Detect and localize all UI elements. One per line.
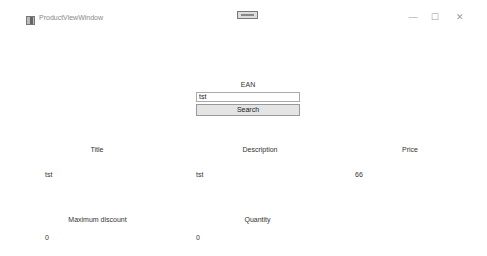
quantity-label: Quantity: [235, 216, 280, 223]
description-label: Description: [230, 146, 290, 153]
title-label: Title: [72, 146, 122, 153]
price-value: 66: [355, 171, 363, 178]
quantity-value: 0: [196, 234, 200, 241]
maximize-button[interactable]: ☐: [428, 12, 442, 22]
title-bar: ProductViewWindow — ☐ ✕: [0, 0, 487, 32]
minimize-button[interactable]: —: [406, 12, 420, 22]
max-discount-label: Maximum discount: [60, 216, 135, 223]
debug-toolbar-icon[interactable]: [237, 11, 258, 19]
ean-label: EAN: [228, 81, 268, 88]
max-discount-value: 0: [45, 234, 49, 241]
description-value: tst: [196, 171, 203, 178]
close-button[interactable]: ✕: [453, 12, 467, 22]
price-label: Price: [390, 146, 430, 153]
ean-input[interactable]: [196, 92, 300, 102]
search-button[interactable]: Search: [196, 104, 300, 116]
app-icon: [26, 16, 35, 25]
window-title: ProductViewWindow: [39, 14, 103, 21]
title-value: tst: [45, 171, 52, 178]
